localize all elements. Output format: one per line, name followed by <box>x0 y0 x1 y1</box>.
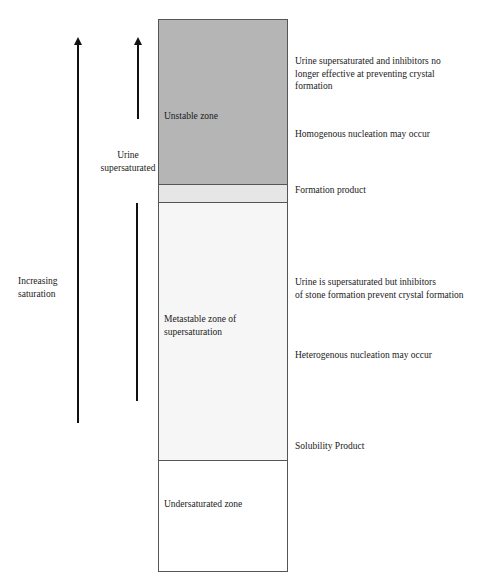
urine-supersaturated-arrowhead-icon <box>134 37 142 45</box>
increasing-saturation-arrow-shaft <box>77 44 79 423</box>
undersaturated-zone-label: Undersaturated zone <box>164 498 242 511</box>
increasing-saturation-label: Increasing saturation <box>18 275 58 300</box>
metastable-zone-label: Metastable zone of supersaturation <box>164 313 236 338</box>
urine-supersaturated-arrow-upper <box>137 44 139 119</box>
metastable-zone-description: Urine is supersaturated but inhibitors o… <box>295 276 464 301</box>
unstable-zone-label: Unstable zone <box>164 110 218 123</box>
urine-supersaturated-arrow-lower <box>136 203 138 401</box>
metastable-zone: Metastable zone of supersaturation <box>158 203 288 461</box>
unstable-zone-description: Urine supersaturated and inhibitors no l… <box>295 55 441 93</box>
urine-supersaturated-label: Urine supersaturated <box>98 149 158 174</box>
formation-product-label: Formation product <box>295 184 366 197</box>
solubility-product-label: Solubility Product <box>295 440 364 453</box>
heterogenous-nucleation-note: Heterogenous nucleation may occur <box>295 349 432 362</box>
homogenous-nucleation-note: Homogenous nucleation may occur <box>295 128 430 141</box>
undersaturated-zone: Undersaturated zone <box>158 461 288 572</box>
formation-band <box>158 185 288 203</box>
increasing-saturation-arrowhead-icon <box>74 37 82 45</box>
unstable-zone: Unstable zone <box>158 19 288 185</box>
